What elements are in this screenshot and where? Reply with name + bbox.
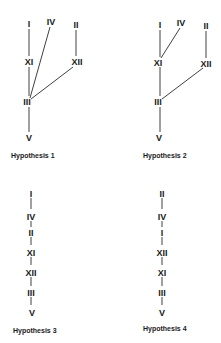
node-V: V	[159, 308, 165, 318]
node-II: II	[28, 228, 33, 238]
node-I: I	[161, 228, 164, 238]
hypotheses-figure: I IV II XI XII III V Hypothesis 1 I IV I…	[0, 0, 221, 343]
caption-hypothesis-2: Hypothesis 2	[143, 152, 187, 160]
node-XI: XI	[154, 58, 163, 68]
node-I: I	[28, 19, 31, 29]
node-IV: IV	[177, 18, 186, 28]
node-XII: XII	[71, 57, 82, 67]
node-IV: IV	[27, 212, 36, 222]
node-V: V	[156, 133, 162, 143]
node-III: III	[154, 97, 162, 107]
node-I: I	[30, 189, 33, 199]
node-III: III	[27, 288, 35, 298]
node-XII: XII	[25, 268, 36, 278]
node-XI: XI	[27, 248, 36, 258]
node-V: V	[29, 308, 35, 318]
node-XII: XII	[156, 248, 167, 258]
node-I: I	[159, 20, 162, 30]
hypothesis-3-diagram: I IV II XI XII III V Hypothesis 3	[13, 189, 57, 335]
node-XII: XII	[200, 59, 211, 69]
node-II: II	[73, 20, 78, 30]
node-IV: IV	[47, 17, 56, 27]
node-II: II	[159, 189, 164, 199]
node-V: V	[26, 133, 32, 143]
caption-hypothesis-1: Hypothesis 1	[11, 152, 55, 160]
node-II: II	[203, 21, 208, 31]
caption-hypothesis-3: Hypothesis 3	[13, 327, 57, 335]
node-IV: IV	[158, 212, 167, 222]
caption-hypothesis-4: Hypothesis 4	[143, 325, 187, 333]
node-XI: XI	[158, 268, 167, 278]
node-III: III	[23, 97, 31, 107]
node-XI: XI	[25, 57, 34, 67]
hypothesis-4-diagram: II IV I XII XI III V Hypothesis 4	[143, 189, 187, 333]
hypothesis-1-diagram: I IV II XI XII III V Hypothesis 1	[11, 17, 83, 160]
hypothesis-2-diagram: I IV II XI XII III V Hypothesis 2	[143, 18, 212, 160]
node-III: III	[158, 288, 166, 298]
